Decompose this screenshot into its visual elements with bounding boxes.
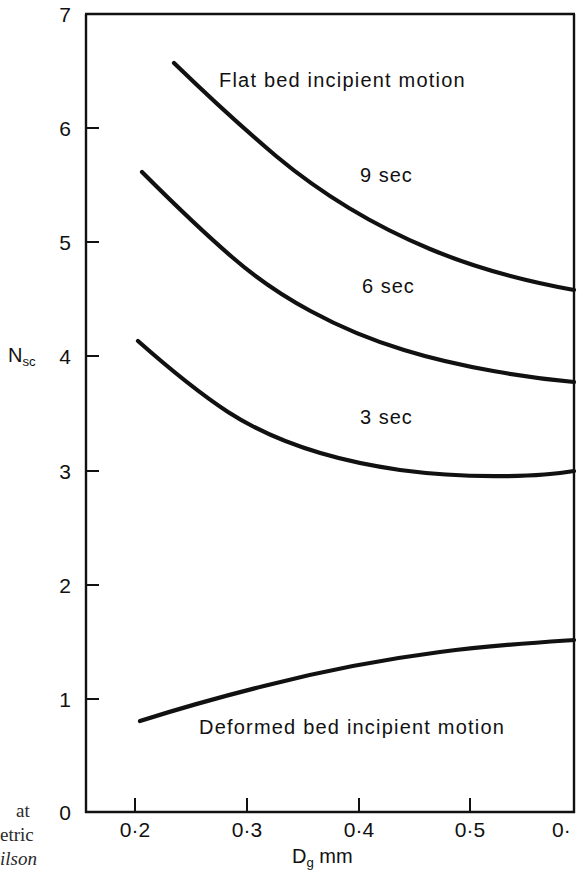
x-tick-label-0-4: 0·4 (329, 818, 389, 842)
y-axis-ticks (86, 128, 99, 699)
y-tick-label-0: 0 (41, 801, 71, 825)
series-label-3-sec: 3 sec (360, 406, 413, 429)
y-axis-title-main: N (8, 344, 22, 366)
y-tick-label-6: 6 (41, 117, 71, 141)
y-tick-label-4: 4 (41, 345, 71, 369)
x-axis-title: Dg mm (292, 845, 353, 870)
y-tick-label-2: 2 (41, 574, 71, 598)
curve-deformed-bed (140, 640, 574, 721)
y-tick-label-1: 1 (41, 688, 71, 712)
axis-frame (85, 14, 575, 813)
y-tick-label-3: 3 (41, 460, 71, 484)
x-tick-label-0-2: 0·2 (105, 818, 165, 842)
annotation-deformed-bed-incipient-motion: Deformed bed incipient motion (199, 716, 505, 739)
curve-3-sec (138, 341, 574, 476)
caption-fragment-line-3: ilson (0, 848, 37, 870)
y-tick-label-7: 7 (41, 3, 71, 27)
x-axis-title-main: D (292, 845, 306, 867)
y-axis-title: Nsc (8, 344, 36, 369)
x-tick-label-0-6: 0· (552, 818, 583, 842)
y-axis-title-sub: sc (22, 354, 35, 369)
annotation-flat-bed-incipient-motion: Flat bed incipient motion (219, 69, 466, 92)
figure-canvas: 7 6 5 4 3 2 1 0 0·2 0·3 0·4 0·5 0· Nsc D… (0, 0, 583, 873)
data-curves (138, 63, 574, 721)
x-axis-ticks (135, 798, 470, 812)
x-axis-title-unit: mm (319, 845, 352, 867)
series-label-6-sec: 6 sec (362, 275, 415, 298)
y-tick-label-5: 5 (41, 231, 71, 255)
x-axis-title-sub: g (306, 855, 313, 870)
x-tick-label-0-3: 0·3 (217, 818, 277, 842)
series-label-9-sec: 9 sec (360, 164, 413, 187)
chart-plot-area (0, 0, 583, 873)
caption-fragment-line-2: etric (0, 824, 34, 846)
x-tick-label-0-5: 0·5 (440, 818, 500, 842)
caption-fragment-line-1: at (16, 800, 30, 822)
